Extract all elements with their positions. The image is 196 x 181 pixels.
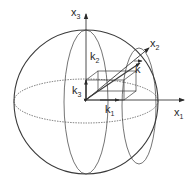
x1-label: x1 [174,106,184,120]
component-box [86,71,136,100]
k3-label: k3 [72,84,82,98]
k1-label: k1 [105,103,115,117]
k-vector [88,63,140,98]
k2-label: k2 [90,50,100,64]
x2-label: x2 [150,37,160,51]
sphere-diagram: x3 x2 x1 k2 k3 k1 k [0,0,196,181]
x3-label: x3 [71,6,81,20]
k-vector-label: k [135,63,141,75]
